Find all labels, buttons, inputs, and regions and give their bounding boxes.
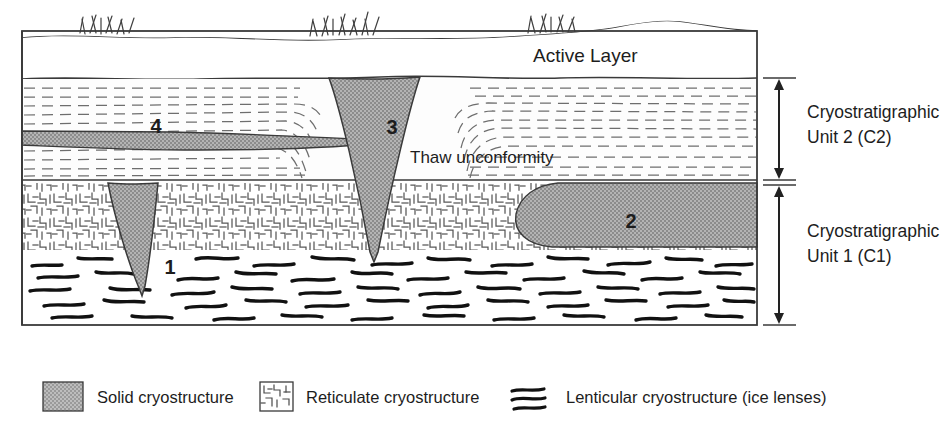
bracket-unit-1 bbox=[763, 185, 796, 325]
bracket-unit-1-line1: Cryostratigraphic bbox=[807, 221, 940, 241]
marker-4-label: 4 bbox=[150, 115, 162, 137]
legend: Solid cryostructure Reticulate cryostruc… bbox=[43, 382, 826, 411]
figure-root: Active Layer Thaw unconformity 4 3 1 2 C… bbox=[0, 0, 947, 435]
bracket-unit-1-line2: Unit 1 (C1) bbox=[807, 246, 892, 266]
active-layer-fill bbox=[22, 21, 757, 79]
legend-lenticular-label: Lenticular cryostructure (ice lenses) bbox=[566, 388, 826, 406]
bracket-unit-2 bbox=[763, 78, 796, 180]
active-layer-label: Active Layer bbox=[533, 45, 638, 66]
bracket-unit-2-line1: Cryostratigraphic bbox=[807, 102, 940, 122]
active-layer-region bbox=[22, 21, 757, 79]
bracket-unit-2-line2: Unit 2 (C2) bbox=[807, 127, 892, 147]
thaw-unconformity-label: Thaw unconformity bbox=[410, 148, 554, 167]
cryostratigraphy-cross-section: Active Layer Thaw unconformity 4 3 1 2 C… bbox=[0, 0, 947, 435]
solid-fill-swatch bbox=[43, 382, 83, 411]
legend-solid-label: Solid cryostructure bbox=[97, 388, 234, 406]
lenticular-swatch bbox=[512, 389, 545, 409]
marker-3-label: 3 bbox=[386, 116, 397, 138]
grass-tuft-icon bbox=[310, 12, 379, 36]
legend-reticulate-label: Reticulate cryostructure bbox=[306, 388, 479, 406]
marker-1-label: 1 bbox=[164, 256, 175, 278]
marker-2-label: 2 bbox=[625, 210, 636, 232]
